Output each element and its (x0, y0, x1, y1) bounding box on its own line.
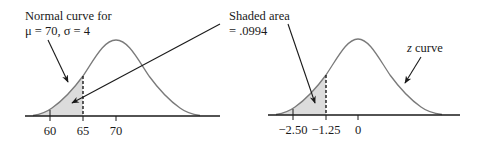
z-curve-label-rest: curve (412, 41, 443, 55)
right-tick-label-neg2-50: −2.50 (279, 123, 308, 137)
shaded-area-label-line1: Shaded area (229, 9, 290, 23)
right-tick-label-neg1-25: −1.25 (312, 123, 341, 137)
left-curve-arrow (48, 40, 68, 82)
normal-curve-diagram: 60 65 70 Normal curve for μ = 70, σ = 4 … (0, 0, 483, 146)
right-z-curve-panel: −2.50 −1.25 0 z curve (268, 24, 460, 137)
left-normal-curve-panel: 60 65 70 Normal curve for μ = 70, σ = 4 (25, 9, 220, 138)
left-normal-curve (33, 40, 200, 116)
left-tick-label-60: 60 (44, 124, 57, 138)
left-shaded-area (33, 76, 83, 116)
left-curve-label-line1: Normal curve for (25, 9, 113, 23)
shaded-area-arrow-right (288, 24, 315, 103)
shaded-area-arrow-left (72, 24, 220, 103)
right-shaded-area (276, 75, 326, 115)
left-curve-label-line2: μ = 70, σ = 4 (25, 24, 91, 38)
left-tick-label-65: 65 (77, 124, 90, 138)
z-curve-arrow (405, 57, 421, 83)
right-tick-label-0: 0 (355, 123, 361, 137)
shaded-area-label-line2: = .0994 (229, 24, 268, 38)
z-curve-label: z curve (406, 41, 443, 55)
left-tick-label-70: 70 (110, 124, 123, 138)
